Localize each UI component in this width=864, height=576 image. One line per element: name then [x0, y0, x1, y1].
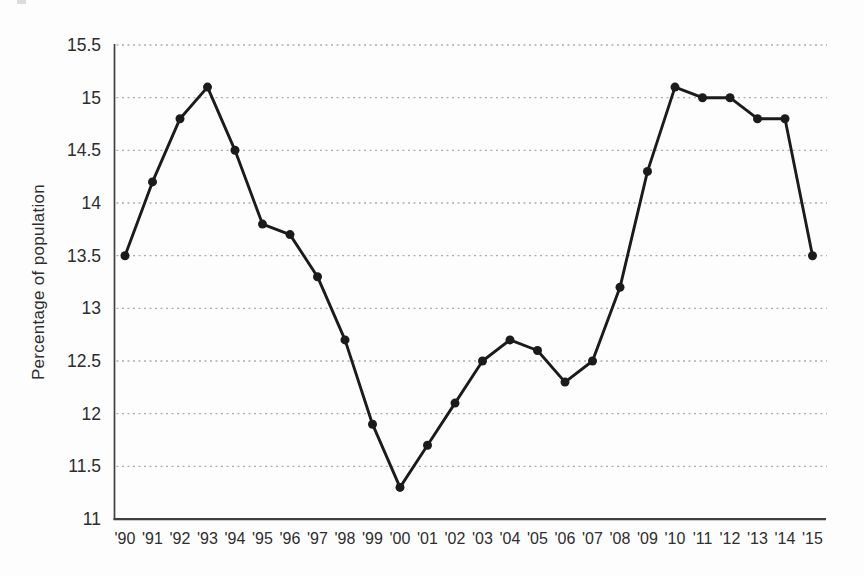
y-tick-label: 13: [82, 298, 101, 318]
x-tick-label: '90: [115, 530, 136, 547]
y-tick-label: 11: [83, 509, 101, 529]
x-tick-label: '08: [610, 530, 631, 547]
x-tick-label: '06: [555, 530, 576, 547]
x-tick-label: '00: [390, 530, 411, 547]
x-tick-label: '92: [170, 530, 191, 547]
y-tick-label: 13.5: [67, 246, 101, 266]
y-tick-label: 15: [82, 88, 101, 108]
x-tick-label: '04: [500, 530, 521, 547]
data-point: [396, 483, 405, 492]
y-tick-label: 12.5: [67, 351, 101, 371]
data-point: [753, 114, 762, 123]
x-tick-label: '91: [142, 530, 163, 547]
data-point: [231, 146, 240, 155]
x-tick-label: '05: [527, 530, 548, 547]
line-chart-figure: Percentage of population 1111.51212.5131…: [0, 0, 864, 576]
x-tick-label: '11: [693, 530, 713, 547]
data-point: [478, 357, 487, 366]
data-point: [643, 167, 652, 176]
x-tick-label: '10: [665, 530, 686, 547]
x-tick-label: '07: [582, 530, 603, 547]
data-point: [451, 399, 460, 408]
x-tick-label: '03: [472, 530, 493, 547]
y-tick-label: 11.5: [68, 456, 101, 476]
x-tick-label: '94: [225, 530, 246, 547]
y-tick-label: 12: [82, 404, 101, 424]
data-point: [203, 83, 212, 92]
data-point: [561, 378, 570, 387]
x-tick-label: '12: [720, 530, 741, 547]
data-point: [616, 283, 625, 292]
data-point: [588, 357, 597, 366]
y-tick-label: 14: [82, 193, 102, 213]
x-tick-label: '95: [252, 530, 273, 547]
data-point: [671, 83, 680, 92]
data-point: [781, 114, 790, 123]
data-point: [368, 420, 377, 429]
x-tick-label: '93: [197, 530, 218, 547]
x-tick-label: '01: [417, 530, 438, 547]
data-point: [313, 272, 322, 281]
data-point: [726, 93, 735, 102]
data-point: [341, 335, 350, 344]
data-point: [258, 220, 267, 229]
data-point: [176, 114, 185, 123]
x-tick-label: '99: [362, 530, 383, 547]
data-point: [698, 93, 707, 102]
y-tick-label: 15.5: [67, 35, 101, 55]
x-tick-label: '15: [802, 530, 823, 547]
y-tick-label: 14.5: [67, 140, 101, 160]
x-tick-label: '13: [747, 530, 768, 547]
data-point: [506, 335, 515, 344]
data-line: [125, 87, 813, 487]
data-point: [808, 251, 817, 260]
scan-artifact: [17, 0, 26, 4]
x-tick-label: '02: [445, 530, 466, 547]
data-point: [286, 230, 295, 239]
x-tick-label: '96: [280, 530, 301, 547]
data-point: [533, 346, 542, 355]
data-point: [148, 177, 157, 186]
x-tick-label: '98: [335, 530, 356, 547]
x-tick-label: '97: [307, 530, 328, 547]
x-tick-label: '09: [637, 530, 658, 547]
line-chart: 1111.51212.51313.51414.51515.5'90'91'92'…: [0, 0, 864, 576]
data-point: [423, 441, 432, 450]
x-tick-label: '14: [775, 530, 796, 547]
data-point: [121, 251, 130, 260]
